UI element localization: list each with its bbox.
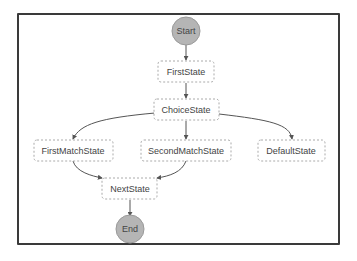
edge-firstmatch-to-next: [73, 161, 102, 178]
state-machine-diagram: Start FirstState ChoiceState FirstMatchS…: [0, 0, 357, 261]
node-end[interactable]: End: [116, 215, 144, 243]
node-next-state-label: NextState: [110, 184, 150, 194]
node-second-match-state[interactable]: SecondMatchState: [141, 140, 231, 161]
node-end-label: End: [122, 224, 138, 234]
node-default-state-label: DefaultState: [266, 146, 316, 156]
node-start-label: Start: [176, 26, 196, 36]
node-first-match-state[interactable]: FirstMatchState: [34, 140, 113, 161]
edge-choice-to-firstmatch: [73, 113, 155, 139]
node-start[interactable]: Start: [172, 17, 200, 45]
node-default-state[interactable]: DefaultState: [258, 140, 325, 161]
node-next-state[interactable]: NextState: [102, 178, 157, 199]
node-first-state-label: FirstState: [167, 67, 206, 77]
node-second-match-state-label: SecondMatchState: [148, 146, 224, 156]
edge-secondmatch-to-next: [157, 161, 186, 178]
node-choice-state-label: ChoiceState: [161, 105, 210, 115]
node-choice-state[interactable]: ChoiceState: [154, 99, 219, 120]
node-first-match-state-label: FirstMatchState: [41, 146, 104, 156]
edge-choice-to-default: [219, 114, 292, 139]
node-first-state[interactable]: FirstState: [158, 61, 214, 82]
